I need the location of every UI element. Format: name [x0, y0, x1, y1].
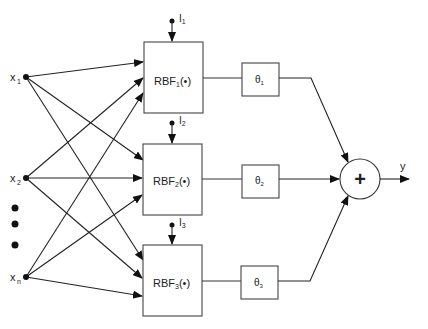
svg-text:RBF3(•): RBF3(•): [153, 277, 190, 290]
bias-label-2: I2: [179, 115, 186, 127]
rbf-unit-2: RBF2(•) I2: [143, 115, 202, 215]
output-label-y: y: [400, 160, 406, 172]
plus-icon: +: [354, 168, 366, 190]
bias-label-1: I1: [179, 13, 186, 25]
svg-text:RBF2(•): RBF2(•): [153, 175, 190, 188]
input-node-x1: x 1: [10, 71, 29, 85]
bias-label-3: I3: [179, 217, 186, 229]
svg-text:1: 1: [17, 78, 21, 85]
input-connections: [26, 62, 143, 296]
weight-box-2: θ2: [242, 165, 279, 198]
rbf-network-diagram: x 1 x 2 x n RBF1(•) I1 RBF2(•) I2 RBF3(•…: [0, 0, 428, 329]
input-label-x2: x: [10, 172, 16, 184]
output: y: [380, 160, 409, 179]
weight-box-1: θ1: [242, 63, 279, 96]
input-node-x2: x 2: [10, 172, 29, 186]
weight-to-sum-lines: [278, 78, 348, 281]
svg-text:n: n: [17, 278, 21, 285]
summation-node: +: [340, 159, 380, 199]
input-label-xn: x: [10, 271, 16, 283]
weight-box-3: θ3: [241, 266, 278, 299]
rbf-unit-1: RBF1(•) I1: [144, 13, 203, 113]
ellipsis-dots-icon: [12, 205, 19, 249]
rbf-to-weight-lines: [202, 78, 242, 281]
input-node-xn: x n: [10, 271, 29, 285]
rbf-unit-3: RBF3(•) I3: [143, 217, 202, 316]
input-label-x1: x: [10, 71, 16, 83]
svg-text:2: 2: [17, 179, 21, 186]
svg-text:RBF1(•): RBF1(•): [154, 75, 191, 88]
